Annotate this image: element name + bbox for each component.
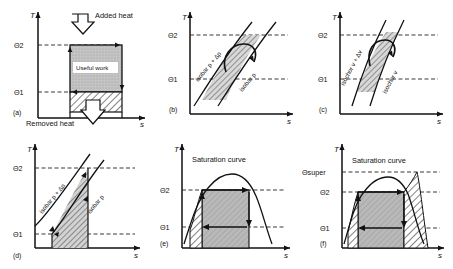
y-axis-label-f: T — [334, 145, 340, 154]
panel-tag-b: (b) — [169, 106, 177, 114]
tick-theta1-a: Θ1 — [14, 88, 24, 97]
tick-theta2-c: Θ2 — [318, 31, 328, 40]
panel-b: T s Θ2 Θ1 isobar p + Δp isobar p (b) — [150, 0, 300, 130]
x-axis-arrow-d — [134, 245, 140, 250]
tick-theta-super-f: Θsuper — [302, 168, 326, 177]
y-axis-arrow-f — [339, 144, 344, 150]
saturation-curve-label-f: Saturation curve — [352, 156, 406, 165]
y-axis-arrow-d — [32, 144, 37, 150]
x-axis-label-f: s — [438, 251, 442, 260]
y-axis-label-a: T — [30, 11, 36, 20]
y-axis-label-b: T — [182, 13, 188, 22]
x-axis-label-b: s — [287, 117, 291, 126]
y-axis-label-c: T — [332, 13, 338, 22]
panel-tag-d: (d) — [13, 252, 21, 260]
isochor-label-lower-c: isochor v — [381, 69, 399, 95]
isobar-label-upper-d: isobar p + Δp — [37, 182, 66, 215]
tick-theta1-b: Θ1 — [168, 75, 178, 84]
panel-a: T s Θ2 Θ1 Useful work Added heat Removed… — [0, 0, 150, 130]
panel-tag-f: (f) — [320, 240, 326, 248]
x-axis-arrow-f — [438, 245, 444, 250]
added-heat-arrow-a — [72, 14, 94, 34]
tick-theta1-d: Θ1 — [13, 230, 23, 239]
work-region-f — [358, 192, 404, 248]
tick-theta2-f: Θ2 — [320, 188, 330, 197]
x-axis-label-d: s — [134, 251, 138, 260]
panel-c: T s Θ2 Θ1 isochor v + Δv isochor v (c) — [300, 0, 453, 130]
saturation-curve-label-e: Saturation curve — [192, 155, 246, 164]
y-axis-arrow-b — [187, 12, 192, 18]
tick-theta2-e: Θ2 — [160, 186, 170, 195]
removed-heat-label-a: Removed heat — [26, 119, 74, 128]
tick-theta1-c: Θ1 — [318, 75, 328, 84]
y-axis-arrow-c — [337, 12, 342, 18]
panel-f: T s Θsuper Θ2 Θ1 Saturation curve (f) — [300, 130, 453, 269]
x-axis-label-c: s — [437, 117, 441, 126]
cycle-arrow-left-d — [49, 226, 55, 232]
x-axis-arrow-e — [284, 245, 290, 250]
panel-tag-c: (c) — [319, 106, 327, 114]
tick-theta2-d: Θ2 — [13, 164, 23, 173]
panel-e: T s Θ2 Θ1 Saturation curve (e) — [150, 130, 300, 269]
isobar-label-lower-b: isobar p — [237, 71, 257, 93]
panel-d: T s Θ2 Θ1 isobar p + Δp isobar p (d) — [0, 130, 150, 269]
x-axis-arrow-c — [437, 111, 443, 116]
x-axis-label-e: s — [284, 251, 288, 260]
y-axis-arrow-a — [35, 12, 40, 18]
x-axis-arrow-b — [287, 111, 293, 116]
tick-theta1-f: Θ1 — [320, 224, 330, 233]
panel-tag-e: (e) — [160, 240, 168, 248]
tick-theta2-b: Θ2 — [168, 31, 178, 40]
panel-tag-a: (a) — [13, 109, 21, 117]
y-axis-label-e: T — [174, 145, 180, 154]
tick-theta1-e: Θ1 — [160, 223, 170, 232]
y-axis-arrow-e — [179, 144, 184, 150]
figure-sheet: T s Θ2 Θ1 Useful work Added heat Removed… — [0, 0, 453, 269]
useful-work-label-a: Useful work — [76, 64, 109, 71]
x-axis-label-a: s — [140, 120, 144, 129]
added-heat-label-a: Added heat — [95, 11, 133, 20]
right-hatch-region-f — [404, 172, 428, 248]
tick-theta2-a: Θ2 — [14, 41, 24, 50]
work-region-e — [202, 190, 249, 248]
y-axis-label-d: T — [27, 145, 33, 154]
